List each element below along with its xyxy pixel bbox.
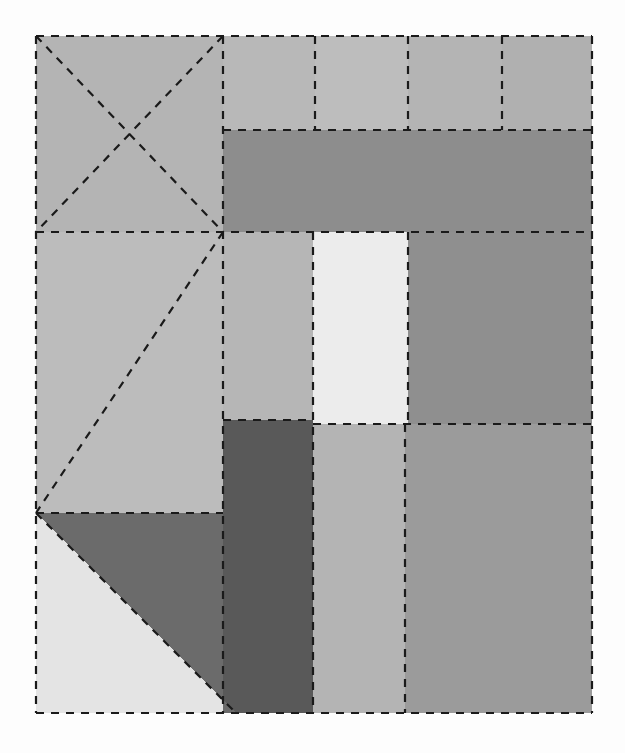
region-top-cell-4 <box>502 36 592 130</box>
region-middle-right-dark-block <box>408 232 592 424</box>
region-lower-mid-column <box>313 424 405 713</box>
partition-figure <box>0 0 625 753</box>
region-top-cell-3 <box>408 36 502 130</box>
region-middle-column-a <box>223 232 313 420</box>
region-lower-dark-block <box>223 420 313 713</box>
region-top-cell-1 <box>223 36 315 130</box>
region-top-wide-dark-band <box>223 130 592 232</box>
region-middle-column-white <box>313 232 408 424</box>
region-top-cell-2 <box>315 36 408 130</box>
diagram-canvas <box>0 0 625 753</box>
region-lower-right-block <box>405 424 592 713</box>
